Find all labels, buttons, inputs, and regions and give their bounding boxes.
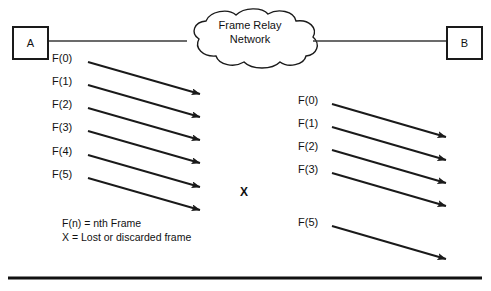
received-frame-label-2: F(2) bbox=[298, 140, 318, 152]
cloud-label-line1: Frame Relay bbox=[200, 18, 300, 32]
node-a-label: A bbox=[27, 37, 34, 49]
legend-line-frame-notation: F(n) = nth Frame bbox=[62, 216, 191, 230]
node-b-box: B bbox=[446, 26, 483, 60]
received-frame-label-1: F(1) bbox=[298, 117, 318, 129]
sent-frame-label-2: F(2) bbox=[52, 98, 72, 110]
sent-frame-label-3: F(3) bbox=[52, 121, 72, 133]
sent-frame-label-4: F(4) bbox=[52, 145, 72, 157]
sent-frame-label-0: F(0) bbox=[52, 52, 72, 64]
sent-frame-label-1: F(1) bbox=[52, 75, 72, 87]
lost-frame-x-marker: X bbox=[240, 185, 248, 199]
received-frame-arrow-4 bbox=[332, 226, 446, 259]
received-frame-label-0: F(0) bbox=[298, 94, 318, 106]
legend-line-lost-frame: X = Lost or discarded frame bbox=[62, 230, 191, 244]
legend: F(n) = nth Frame X = Lost or discarded f… bbox=[62, 216, 191, 244]
diagram-canvas: A B Frame Relay Network X F(n) = nth Fra… bbox=[0, 0, 491, 291]
node-a-box: A bbox=[12, 26, 49, 60]
frame-relay-cloud-label: Frame Relay Network bbox=[200, 18, 300, 46]
received-frame-label-4: F(5) bbox=[298, 216, 318, 228]
received-frame-arrows bbox=[332, 104, 446, 259]
cloud-label-line2: Network bbox=[200, 32, 300, 46]
node-b-label: B bbox=[461, 37, 468, 49]
received-frame-label-3: F(3) bbox=[298, 163, 318, 175]
sent-frame-arrows bbox=[88, 62, 200, 210]
sent-frame-label-5: F(5) bbox=[52, 168, 72, 180]
